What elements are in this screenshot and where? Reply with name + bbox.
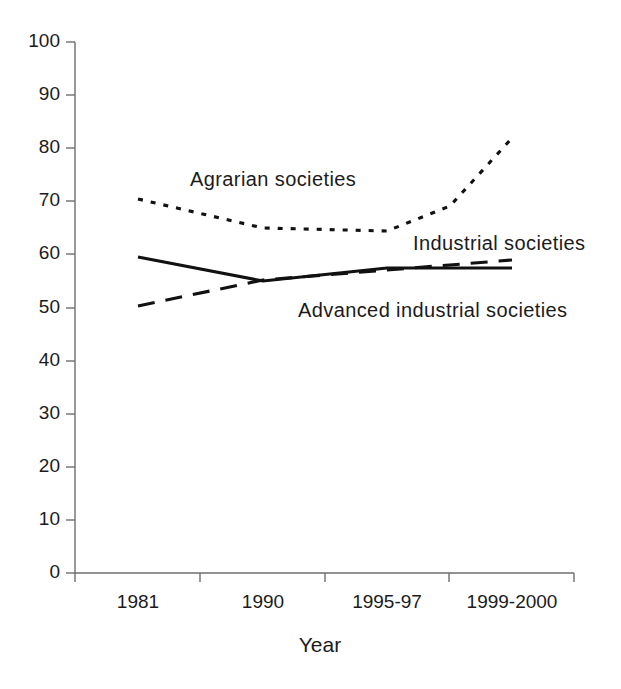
x-tick-marks [75,573,574,582]
y-tick-label: 40 [39,349,60,370]
y-tick-label: 70 [39,189,60,210]
series-annotation-agrarian-societies: Agrarian societies [190,168,356,190]
y-tick-label: 10 [39,508,60,529]
y-tick-label: 90 [39,83,60,104]
y-tick-label: 0 [49,561,60,582]
x-tick-label: 1981 [117,591,159,612]
line-chart: 100 90 80 70 60 50 40 30 20 10 0 1981 19… [0,0,621,689]
x-tick-label: 1990 [242,591,284,612]
y-tick-label: 80 [39,136,60,157]
series-annotation-industrial-societies: Industrial societies [413,232,586,254]
y-tick-label: 20 [39,455,60,476]
chart-container: 100 90 80 70 60 50 40 30 20 10 0 1981 19… [0,0,621,689]
x-axis-title: Year [299,633,341,656]
x-tick-label: 1999-2000 [467,591,558,612]
y-tick-label: 30 [39,402,60,423]
y-tick-label: 60 [39,242,60,263]
y-tick-label: 100 [28,30,60,51]
y-tick-label: 50 [39,296,60,317]
y-tick-marks [66,42,75,573]
series-line-industrial-societies [138,257,512,281]
series-annotation-advanced-industrial-societies: Advanced industrial societies [298,299,568,321]
x-tick-label: 1995-97 [352,591,422,612]
